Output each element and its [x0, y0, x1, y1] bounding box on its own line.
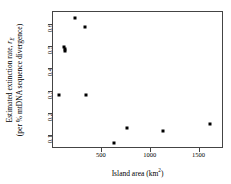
x-axis-tick-labels: 50010001500: [52, 152, 223, 162]
y-axis-title-line-1-text: Estimated extinction rate,: [5, 43, 14, 122]
data-point: [85, 94, 88, 97]
data-point: [84, 26, 87, 29]
data-point: [57, 94, 60, 97]
x-axis-tick-label: 1000: [143, 152, 156, 159]
y-axis-title-line-1: Estimated extinction rate, rE: [6, 37, 16, 122]
data-point: [74, 16, 77, 19]
x-axis-tick-label: 1500: [192, 152, 205, 159]
y-axis-title-line-2: (per % mtDNA sequence divergence): [16, 23, 24, 135]
y-axis-title: Estimated extinction rate, rE (per % mtD…: [3, 11, 29, 148]
plot-panel: [52, 11, 223, 148]
x-axis-tick-label: 500: [96, 152, 106, 159]
data-point: [209, 123, 212, 126]
data-point: [161, 129, 164, 132]
y-axis-title-subscript: E: [9, 37, 15, 40]
x-axis-title-tail: ): [161, 169, 164, 178]
data-point-layer: [53, 12, 222, 147]
data-point: [112, 142, 115, 145]
data-point: [126, 127, 129, 130]
x-axis-title: Island area (km2): [52, 167, 223, 178]
x-axis-title-text: Island area (km: [112, 169, 159, 178]
scatter-plot-figure: Estimated extinction rate, rE (per % mtD…: [0, 0, 231, 184]
y-axis-tick-labels: 0.60.50.40.30.20.1: [30, 11, 50, 148]
data-point: [64, 49, 67, 52]
